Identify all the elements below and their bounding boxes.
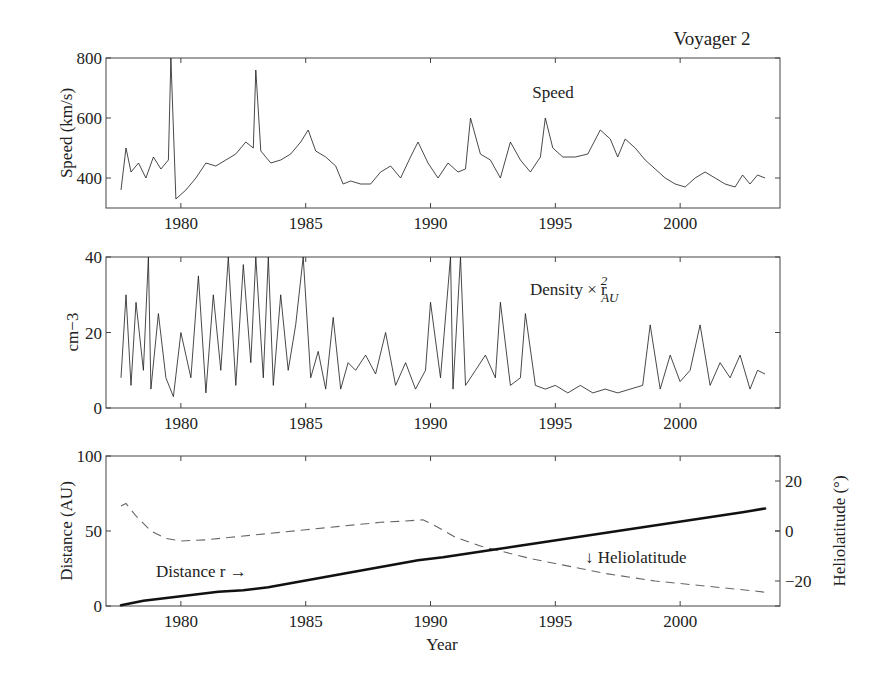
density-annotation: Density × r2AU [530, 273, 620, 305]
x-tick-label: 1985 [289, 214, 323, 233]
x-tick-label: 1990 [414, 414, 448, 433]
distance-y-ticks-left: 100500 [77, 447, 781, 616]
x-tick-label: 1980 [164, 414, 198, 433]
density-y-axis-label: cm−3 [63, 313, 82, 352]
distance-axes-frame [106, 456, 780, 606]
x-tick-label: 1990 [414, 214, 448, 233]
x-tick-label: 1980 [164, 214, 198, 233]
x-tick-label: 2000 [663, 214, 697, 233]
x-tick-label: 2000 [663, 414, 697, 433]
x-tick-label: 1985 [289, 414, 323, 433]
speed-y-ticks: 800600400 [77, 49, 781, 188]
density-series-line [121, 257, 765, 397]
x-tick-label: 1995 [538, 414, 572, 433]
heliolatitude-y-axis-label: Heliolatitude (°) [830, 475, 849, 586]
x-tick-label: 1995 [538, 214, 572, 233]
density-panel: 19801985199019952000 40200 Density × r2A… [63, 248, 780, 433]
density-x-ticks: 19801985199019952000 [164, 257, 697, 433]
x-tick-label: 2000 [663, 612, 697, 631]
x-tick-label: 1980 [164, 612, 198, 631]
speed-panel: 19801985199019952000 800600400 Speed Spe… [57, 49, 780, 233]
speed-x-ticks: 19801985199019952000 [164, 58, 697, 233]
y-tick-label: 0 [94, 597, 103, 616]
speed-series-line [121, 58, 765, 199]
distance-y-axis-label: Distance (AU) [57, 481, 76, 581]
speed-annotation: Speed [532, 83, 574, 102]
y-tick-label: 0 [94, 399, 103, 418]
x-tick-label: 1995 [538, 612, 572, 631]
figure: Voyager 2 19801985199019952000 800600400… [0, 0, 888, 683]
x-tick-label: 1990 [414, 612, 448, 631]
x-axis-label: Year [426, 635, 458, 654]
density-y-ticks: 40200 [85, 248, 780, 418]
figure-title: Voyager 2 [673, 28, 750, 49]
y-tick-label: 40 [85, 248, 102, 267]
y-tick-label: 600 [77, 109, 103, 128]
distance-annotation: Distance r → [156, 562, 247, 581]
y-tick-label: 20 [85, 324, 102, 343]
speed-y-axis-label: Speed (km/s) [57, 88, 76, 178]
distance-x-ticks: 19801985199019952000 [164, 456, 697, 631]
y-tick-label: 0 [785, 522, 794, 541]
heliolatitude-annotation: ↓ Heliolatitude [585, 548, 687, 567]
density-annotation-sup: 2 [601, 273, 608, 288]
y-tick-label: 400 [77, 169, 103, 188]
y-tick-label: 100 [77, 447, 103, 466]
distance-panel: 19801985199019952000 100500 200−20 Dista… [57, 447, 849, 654]
x-tick-label: 1985 [289, 612, 323, 631]
density-axes-frame [106, 257, 780, 408]
density-annotation-sub: AU [600, 290, 620, 305]
y-tick-label: 50 [85, 522, 102, 541]
y-tick-label: −20 [785, 572, 812, 591]
y-tick-label: 800 [77, 49, 103, 68]
density-annotation-main: Density × r [530, 280, 607, 299]
y-tick-label: 20 [785, 472, 802, 491]
